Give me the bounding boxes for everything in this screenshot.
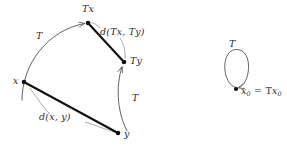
label-x: x — [13, 76, 19, 86]
map-arrow-y-to-Ty — [118, 67, 127, 131]
fixed-point-x2: x — [272, 85, 278, 96]
leader-line-d-Tx-Ty-bottom — [120, 38, 125, 59]
label-d-x-y: d(x, y) — [39, 112, 71, 122]
fixed-point-x: x — [241, 85, 247, 96]
label-y: y — [124, 129, 130, 139]
fixed-point-equals: = T — [251, 85, 272, 96]
segment-x-y — [24, 82, 118, 133]
map-arrow-x-to-Tx — [22, 24, 85, 101]
diagram-canvas — [0, 0, 287, 149]
label-Tx: Tx — [82, 4, 94, 14]
fixed-point-subscript-2: 0 — [278, 90, 282, 98]
contraction-mapping-figure: Tx Ty x y d(Tx, Ty) d(x, y) T T T x0 = T… — [0, 0, 287, 149]
self-loop-arrow-x0 — [225, 49, 249, 87]
point-marker-y — [116, 131, 121, 136]
label-Ty: Ty — [130, 56, 142, 66]
point-marker-Ty — [122, 60, 127, 65]
fixed-point-subscript: 0 — [247, 90, 251, 98]
label-T-lower: T — [132, 93, 139, 103]
label-T-upper: T — [36, 31, 43, 41]
point-marker-x — [22, 80, 27, 85]
point-marker-Tx — [86, 21, 91, 26]
label-T-loop: T — [229, 39, 236, 49]
point-marker-x0 — [234, 87, 238, 91]
label-fixed-point-equation: x0 = Tx0 — [241, 86, 282, 96]
label-d-Tx-Ty: d(Tx, Ty) — [100, 27, 145, 37]
